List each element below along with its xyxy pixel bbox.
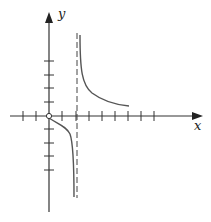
y-axis-arrow-icon	[45, 12, 53, 23]
graph	[0, 0, 211, 222]
y-axis-label: y	[58, 6, 65, 21]
curve-left-branch	[49, 118, 74, 197]
x-axis-label: x	[194, 118, 201, 133]
curve-right-branch	[80, 35, 129, 106]
open-point-origin	[46, 113, 51, 118]
